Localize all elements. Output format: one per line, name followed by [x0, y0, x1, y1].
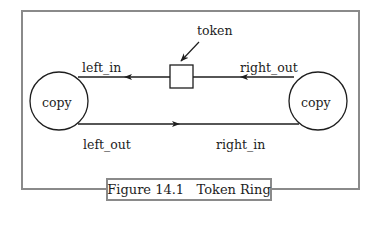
left-out-label: left_out — [83, 139, 131, 152]
token-pointer-arrow — [181, 42, 199, 61]
right-in-label: right_in — [216, 139, 265, 152]
left-copy-label: copy — [42, 97, 72, 110]
figure-caption: Figure 14.1 Token Ring — [106, 178, 272, 201]
token-label: token — [197, 25, 233, 38]
token-box — [170, 65, 193, 88]
left-in-label: left_in — [82, 62, 121, 75]
right-out-label: right_out — [240, 62, 298, 75]
caption-text: Figure 14.1 Token Ring — [107, 182, 270, 197]
right-copy-label: copy — [301, 97, 331, 110]
